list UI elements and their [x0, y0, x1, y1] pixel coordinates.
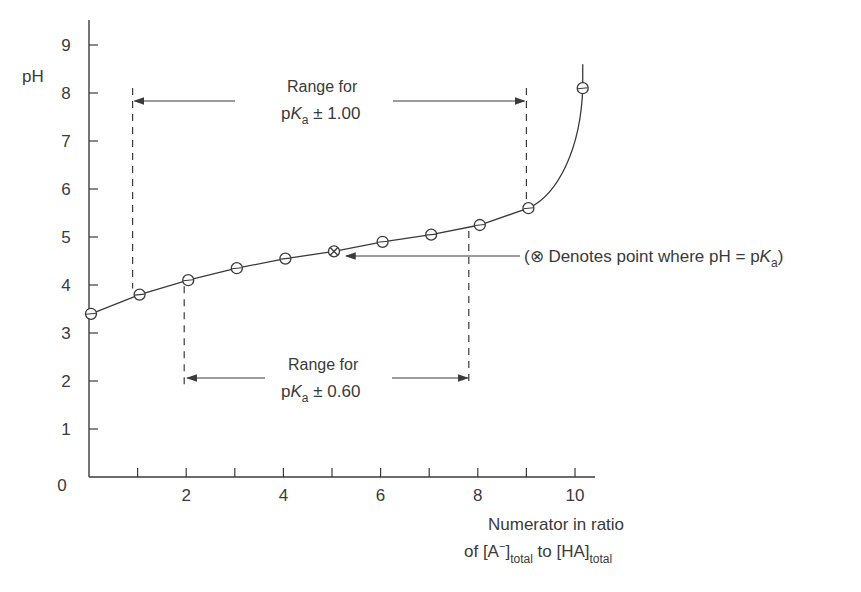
x-tick-label: 2: [181, 486, 190, 505]
y-tick-label: 1: [61, 420, 70, 439]
range-2-label-line1: Range for: [288, 356, 359, 373]
x-tick-label: 6: [376, 486, 385, 505]
y-tick-label: 2: [61, 372, 70, 391]
range-guides: [133, 88, 527, 386]
range-1-label-line2: pKa ± 1.00: [281, 104, 360, 127]
pka-note: (⊗ Denotes point where pH = pKa): [524, 247, 783, 270]
y-tick-label: 9: [61, 36, 70, 55]
x-axis-label-line2: of [A−]total to [HA]total: [464, 540, 612, 566]
titration-curve-line: [91, 64, 583, 314]
y-tick-label: 7: [61, 132, 70, 151]
x-axis-label-line1: Numerator in ratio: [488, 515, 624, 534]
x-tick-label: 8: [473, 486, 482, 505]
y-axis-label: pH: [22, 67, 44, 86]
y-tick-label: 6: [61, 180, 70, 199]
range-1-label-line1: Range for: [287, 78, 358, 95]
data-series: [86, 64, 589, 319]
y-tick-label: 0: [57, 476, 66, 495]
range-2-label-line2: pKa ± 0.60: [281, 382, 360, 405]
y-tick-label: 8: [61, 84, 70, 103]
x-tick-label: 10: [566, 486, 585, 505]
y-tick-label: 3: [61, 324, 70, 343]
y-tick-label: 5: [61, 228, 70, 247]
titration-chart: 0123456789246810 pH Numerator in ratio o…: [0, 0, 861, 592]
y-tick-label: 4: [61, 276, 70, 295]
x-tick-label: 4: [279, 486, 288, 505]
